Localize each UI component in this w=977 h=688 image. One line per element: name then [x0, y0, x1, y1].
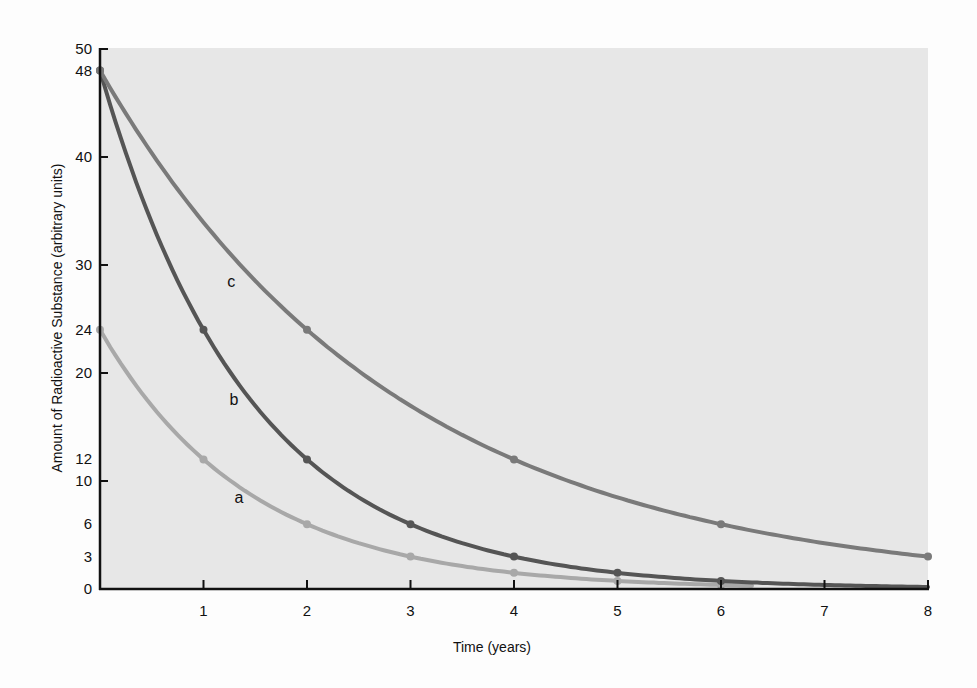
y-tick-label: 30 — [75, 256, 92, 273]
x-tick-label: 4 — [510, 602, 518, 619]
data-point — [510, 455, 518, 463]
x-tick-label: 6 — [717, 602, 725, 619]
data-point — [510, 569, 518, 577]
x-axis-title: Time (years) — [453, 639, 531, 655]
x-tick-label: 1 — [199, 602, 207, 619]
curve-label-a: a — [235, 489, 244, 506]
x-tick-label: 8 — [924, 602, 932, 619]
y-tick-label: 10 — [75, 472, 92, 489]
data-point — [303, 455, 311, 463]
data-point — [200, 326, 208, 334]
decay-chart: 123456780361012202430404850 abc Time (ye… — [0, 0, 977, 688]
curve-label-c: c — [227, 273, 235, 290]
plot-area — [100, 48, 928, 589]
y-tick-label: 48 — [75, 62, 92, 79]
x-tick-label: 3 — [406, 602, 414, 619]
y-tick-label: 0 — [84, 580, 92, 597]
data-point — [407, 553, 415, 561]
data-point — [303, 326, 311, 334]
x-tick-label: 5 — [613, 602, 621, 619]
y-tick-label: 40 — [75, 148, 92, 165]
y-tick-label: 12 — [75, 450, 92, 467]
data-point — [614, 569, 622, 577]
curve-label-b: b — [229, 391, 238, 408]
y-tick-label: 6 — [84, 515, 92, 532]
data-point — [510, 553, 518, 561]
data-point — [303, 520, 311, 528]
y-tick-label: 24 — [75, 321, 92, 338]
y-axis-title: Amount of Radioactive Substance (arbitra… — [49, 164, 65, 473]
y-tick-label: 3 — [84, 548, 92, 565]
x-tick-label: 2 — [303, 602, 311, 619]
data-point — [924, 553, 932, 561]
data-point — [200, 455, 208, 463]
x-tick-label: 7 — [820, 602, 828, 619]
data-point — [407, 520, 415, 528]
y-tick-label: 50 — [75, 40, 92, 57]
y-tick-label: 20 — [75, 364, 92, 381]
data-point — [717, 520, 725, 528]
